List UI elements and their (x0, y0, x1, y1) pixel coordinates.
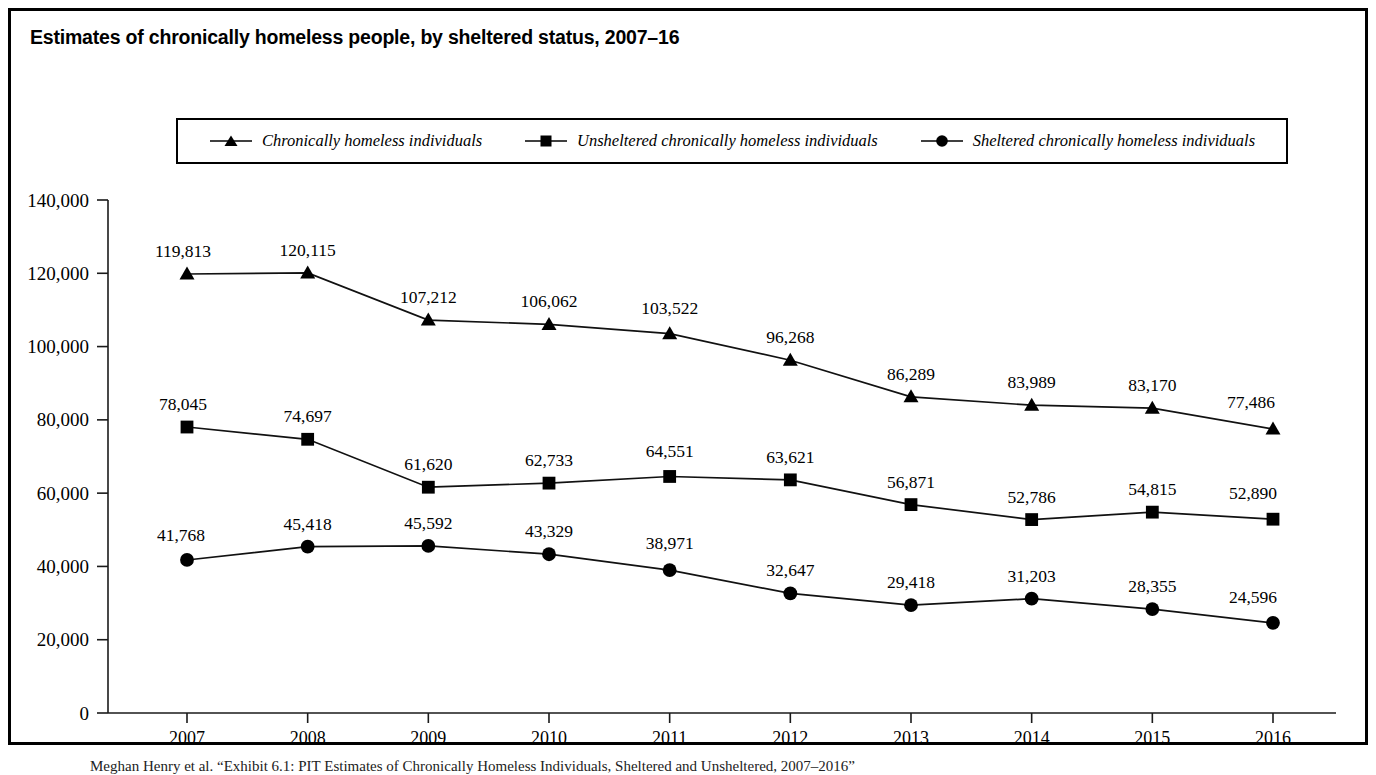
series-line-square (187, 427, 1273, 520)
data-point-marker[interactable] (180, 553, 194, 567)
data-point-marker[interactable] (904, 598, 918, 612)
data-point-marker[interactable] (784, 473, 797, 486)
figure-footnote: Meghan Henry et al. “Exhibit 6.1: PIT Es… (90, 758, 1360, 775)
data-point-value-label: 64,551 (646, 441, 694, 461)
data-point-marker[interactable] (1025, 513, 1038, 526)
data-point-value-label: 43,329 (525, 521, 573, 541)
data-point-value-label: 106,062 (521, 291, 578, 311)
x-axis-tick-label: 2016 (1255, 728, 1291, 748)
data-point-value-label: 83,989 (1008, 372, 1056, 392)
x-axis-tick-label: 2008 (290, 728, 326, 748)
data-point-value-label: 120,115 (280, 240, 336, 260)
data-point-marker[interactable] (542, 547, 556, 561)
data-point-value-label: 32,647 (766, 560, 814, 580)
data-point-marker[interactable] (783, 586, 797, 600)
data-point-value-label: 78,045 (159, 394, 207, 414)
y-axis-tick-label: 80,000 (37, 409, 89, 430)
data-point-marker[interactable] (421, 539, 435, 553)
data-point-value-label: 38,971 (646, 533, 694, 553)
figure-container: Estimates of chronically homeless people… (0, 0, 1376, 775)
line-chart-plot: 140,000120,000100,00080,00060,00040,0002… (0, 0, 1376, 775)
data-point-value-label: 103,522 (641, 298, 698, 318)
data-point-value-label: 83,170 (1128, 375, 1176, 395)
y-axis-tick-label: 20,000 (37, 629, 89, 650)
data-point-value-label: 29,418 (887, 572, 935, 592)
data-point-value-label: 45,418 (284, 514, 332, 534)
data-point-marker[interactable] (422, 481, 435, 494)
data-point-value-label: 28,355 (1128, 576, 1176, 596)
data-point-marker[interactable] (181, 421, 194, 434)
x-axis-tick-label: 2010 (531, 728, 567, 748)
y-axis-tick-label: 140,000 (27, 190, 89, 211)
chart-series (180, 265, 1281, 629)
data-point-value-label: 52,890 (1229, 483, 1277, 503)
y-axis-tick-label: 0 (80, 703, 90, 724)
data-point-value-label: 24,596 (1229, 587, 1277, 607)
x-axis-tick-label: 2014 (1014, 728, 1050, 748)
data-point-value-label: 86,289 (887, 364, 935, 384)
data-point-marker[interactable] (543, 477, 556, 490)
data-point-value-label: 77,486 (1227, 392, 1275, 412)
data-point-value-label: 41,768 (157, 525, 205, 545)
data-point-value-label: 54,815 (1128, 479, 1176, 499)
data-point-value-label: 31,203 (1008, 566, 1056, 586)
data-point-marker[interactable] (663, 470, 676, 483)
chart-value-labels: 119,813120,115107,212106,062103,52296,26… (155, 240, 1277, 607)
data-point-value-label: 63,621 (766, 447, 814, 467)
data-point-marker[interactable] (1145, 602, 1159, 616)
data-point-value-label: 107,212 (400, 287, 457, 307)
data-point-marker[interactable] (301, 540, 315, 554)
data-point-value-label: 45,592 (404, 513, 452, 533)
data-point-value-label: 56,871 (887, 472, 935, 492)
x-axis-tick-label: 2007 (169, 728, 205, 748)
data-point-marker[interactable] (1266, 616, 1280, 630)
y-axis-tick-label: 40,000 (37, 556, 89, 577)
y-axis-tick-label: 60,000 (37, 483, 89, 504)
data-point-value-label: 96,268 (766, 327, 814, 347)
data-point-marker[interactable] (300, 265, 315, 278)
data-point-value-label: 52,786 (1008, 487, 1056, 507)
data-point-marker[interactable] (180, 267, 195, 280)
data-point-marker[interactable] (1145, 401, 1160, 414)
data-point-marker[interactable] (1146, 506, 1159, 519)
data-point-marker[interactable] (421, 313, 436, 326)
x-axis-tick-label: 2009 (410, 728, 446, 748)
data-point-value-label: 74,697 (284, 406, 332, 426)
data-point-value-label: 61,620 (404, 454, 452, 474)
data-point-marker[interactable] (301, 433, 314, 446)
data-point-marker[interactable] (905, 498, 918, 511)
data-point-marker[interactable] (1267, 513, 1280, 526)
x-axis-tick-label: 2013 (893, 728, 929, 748)
x-axis-tick-label: 2011 (652, 728, 687, 748)
data-point-marker[interactable] (663, 563, 677, 577)
x-axis-tick-label: 2012 (772, 728, 808, 748)
series-line-circle (187, 546, 1273, 623)
data-point-value-label: 119,813 (155, 241, 211, 261)
x-axis-tick-label: 2015 (1134, 728, 1170, 748)
series-line-triangle (187, 273, 1273, 429)
data-point-marker[interactable] (1025, 592, 1039, 606)
y-axis-tick-label: 120,000 (27, 263, 89, 284)
data-point-value-label: 62,733 (525, 450, 573, 470)
y-axis-tick-label: 100,000 (27, 336, 89, 357)
